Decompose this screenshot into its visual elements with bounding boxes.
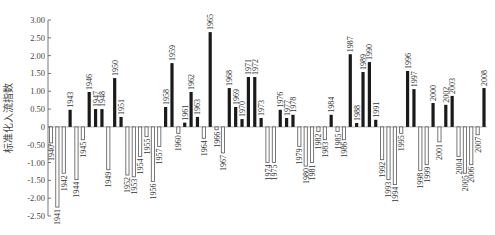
y-tick-label: -2.00 <box>27 193 45 203</box>
bar-1979 <box>298 127 301 147</box>
year-label-1954: 1954 <box>136 158 145 174</box>
bar-1993 <box>387 127 390 180</box>
year-label-1941: 1941 <box>53 209 62 225</box>
bar-1985 <box>336 127 339 132</box>
bar-2002 <box>444 105 447 127</box>
year-label-2001: 2001 <box>435 144 444 160</box>
bar-2001 <box>438 127 441 142</box>
bar-1986 <box>342 127 345 140</box>
year-label-1986: 1986 <box>340 142 349 158</box>
year-label-1979: 1979 <box>295 149 304 165</box>
bar-2007 <box>476 127 479 135</box>
year-label-1991: 1991 <box>372 102 381 118</box>
year-label-1995: 1995 <box>397 135 406 151</box>
y-tick-label: -1.50 <box>27 175 45 185</box>
bar-1945 <box>81 127 84 140</box>
year-label-1984: 1984 <box>327 97 336 113</box>
y-tick-label: -1.00 <box>27 158 45 168</box>
year-label-1981: 1981 <box>308 165 317 181</box>
y-tick-label: 0.50 <box>30 104 45 114</box>
bar-2000 <box>431 103 434 127</box>
year-label-1966: 1966 <box>213 132 222 148</box>
y-tick-label: 3.00 <box>30 15 45 25</box>
bar-1955 <box>145 127 148 137</box>
y-tick-label: 1.00 <box>30 86 45 96</box>
bar-1988 <box>355 123 358 127</box>
year-label-1987: 1987 <box>346 36 355 52</box>
year-label-2004: 2004 <box>455 158 464 174</box>
bar-1967 <box>221 127 224 153</box>
year-label-2007: 2007 <box>474 137 483 153</box>
year-label-1967: 1967 <box>219 155 228 171</box>
y-tick-label: -0.50 <box>27 140 45 150</box>
year-label-1992: 1992 <box>378 162 387 178</box>
y-tick-label: 1.50 <box>30 68 45 78</box>
bar-1992 <box>381 127 384 160</box>
inflow-index-bar-chart: 3.002.502.001.501.000.500-0.50-1.00-1.50… <box>0 0 495 235</box>
bar-2005 <box>463 127 466 173</box>
bar-1996 <box>406 71 409 127</box>
year-label-1997: 1997 <box>410 71 419 87</box>
bar-2003 <box>451 96 454 127</box>
bar-1994 <box>393 127 396 185</box>
bar-1972 <box>253 77 256 127</box>
y-tick-label: 2.50 <box>30 33 45 43</box>
year-label-1959: 1959 <box>168 45 177 61</box>
year-label-1975: 1975 <box>270 165 279 181</box>
bar-1991 <box>374 120 377 127</box>
year-label-2003: 2003 <box>448 78 457 94</box>
bar-1981 <box>310 127 313 163</box>
year-label-1988: 1988 <box>353 105 362 121</box>
bar-1954 <box>139 127 142 157</box>
bar-1976 <box>279 110 282 127</box>
bar-1949 <box>107 127 110 170</box>
bar-1960 <box>177 127 180 133</box>
bar-1970 <box>240 119 243 127</box>
bar-1947 <box>94 109 97 127</box>
bar-1943 <box>69 110 72 127</box>
year-label-1990: 1990 <box>365 44 374 60</box>
year-label-1944: 1944 <box>72 182 81 198</box>
bar-1956 <box>151 127 154 182</box>
bar-1998 <box>419 127 422 171</box>
year-label-1940: 1940 <box>47 145 56 161</box>
year-label-1958: 1958 <box>162 89 171 105</box>
bar-1989 <box>361 72 364 127</box>
year-label-1962: 1962 <box>187 74 196 90</box>
bar-1940 <box>49 127 52 143</box>
year-label-1973: 1973 <box>257 100 266 116</box>
bar-2004 <box>457 127 460 157</box>
bar-1957 <box>158 127 161 147</box>
bar-1962 <box>189 92 192 127</box>
bar-1952 <box>126 127 129 175</box>
year-label-1957: 1957 <box>155 149 164 165</box>
y-axis-label: 标准化入流指数 <box>2 83 14 153</box>
bar-1966 <box>215 127 218 130</box>
year-label-1968: 1968 <box>225 70 234 86</box>
bar-1975 <box>272 127 275 163</box>
year-label-1970: 1970 <box>238 101 247 117</box>
bar-1948 <box>100 109 103 127</box>
year-label-2008: 2008 <box>480 70 489 86</box>
bar-1977 <box>285 118 288 127</box>
bar-1999 <box>425 127 428 165</box>
bar-1951 <box>119 117 122 127</box>
year-label-1953: 1953 <box>130 179 139 195</box>
bar-1982 <box>317 127 320 132</box>
bar-1964 <box>202 127 205 138</box>
bar-1953 <box>132 127 135 177</box>
year-label-1956: 1956 <box>149 183 158 199</box>
bar-1997 <box>412 89 415 127</box>
year-label-1964: 1964 <box>200 140 209 156</box>
bar-1995 <box>400 127 403 133</box>
bar-2008 <box>482 88 485 127</box>
year-label-1950: 1950 <box>111 60 120 76</box>
bar-1990 <box>368 62 371 127</box>
bar-1965 <box>209 32 212 127</box>
year-label-1955: 1955 <box>143 139 152 155</box>
year-label-1999: 1999 <box>423 167 432 183</box>
year-label-1963: 1963 <box>193 99 202 115</box>
year-label-1951: 1951 <box>117 99 126 115</box>
year-label-1949: 1949 <box>104 172 113 188</box>
bar-1980 <box>304 127 307 166</box>
